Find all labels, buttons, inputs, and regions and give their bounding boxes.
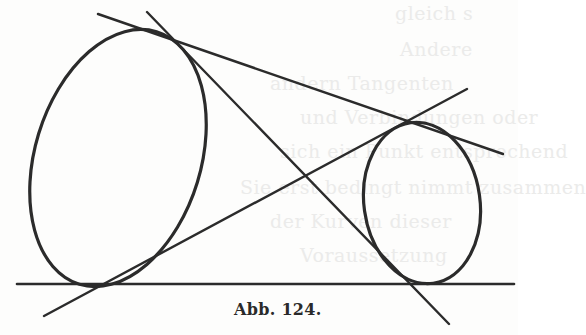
steep-cross-tangent-line bbox=[147, 12, 449, 324]
large-ellipse bbox=[0, 8, 236, 309]
upper-tangent-line bbox=[98, 14, 503, 154]
small-ellipse bbox=[353, 115, 490, 292]
figure-caption: Abb. 124. bbox=[234, 300, 322, 319]
